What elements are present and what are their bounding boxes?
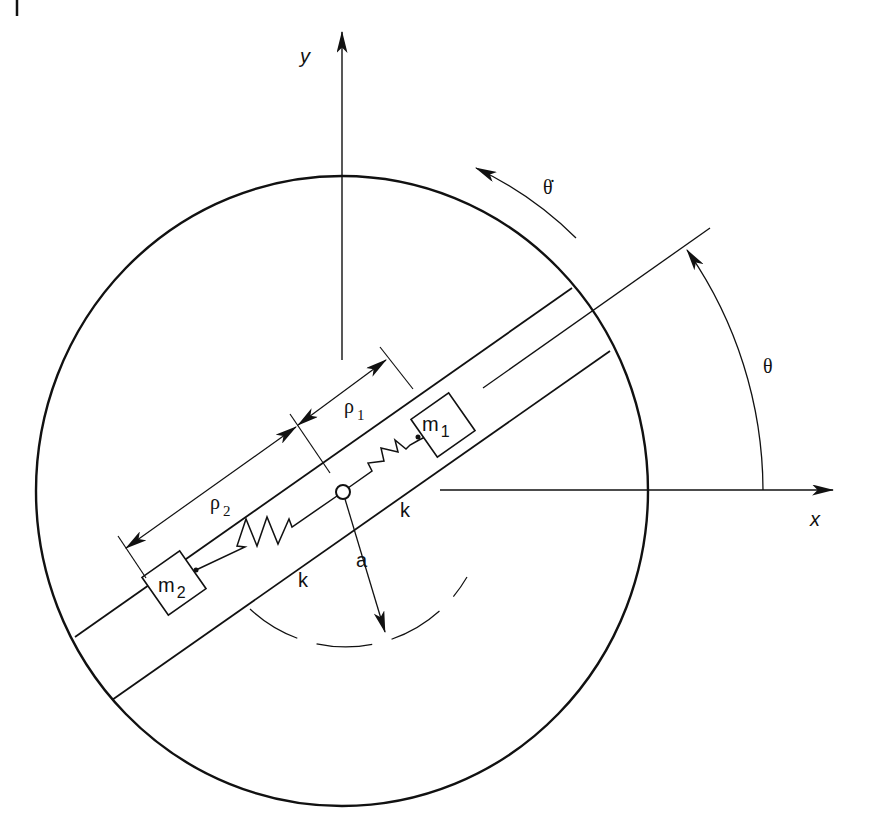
rho1-label: ρ1 [344, 395, 364, 423]
x-axis-label: x [809, 508, 821, 530]
rho2-dimension-line [126, 427, 296, 548]
rho1-ext-line-outer [380, 347, 413, 389]
radius-a-label: a [356, 549, 368, 571]
rho1-ext-line-inner [290, 414, 330, 473]
rho1-dimension-line [298, 360, 386, 425]
spring-1 [348, 436, 427, 488]
theta-dot-arc [476, 168, 576, 238]
spring-1-label: k [400, 499, 411, 521]
radius-a-dashed-arc [250, 577, 467, 647]
m1-attach-point [416, 435, 421, 440]
rho2-label: ρ2 [210, 491, 230, 519]
theta-reference-line [483, 228, 710, 388]
theta-label: θ [763, 355, 773, 377]
rho2-ext-line-outer [118, 536, 146, 578]
rotating-disk-diagram: y x θ θ̇ k m1 k m2 ρ1 ρ2 [0, 0, 869, 832]
theta-arc [687, 250, 763, 490]
spring-2-label: k [298, 569, 309, 591]
slot-lower-wall [112, 351, 610, 700]
y-axis-label: y [298, 45, 311, 67]
center-pivot [336, 485, 350, 499]
theta-dot-label: θ̇ [543, 176, 555, 198]
